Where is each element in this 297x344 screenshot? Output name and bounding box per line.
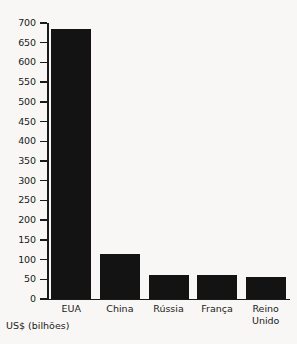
y-axis-tick [40,298,47,300]
y-axis-tick-label: 200 [0,215,36,225]
y-axis-tick-label: 700 [0,18,36,28]
bar [149,275,189,299]
x-axis-tick-label: Reino Unido [241,303,290,326]
y-axis-tick [40,239,47,241]
y-axis-tick-label: 550 [0,77,36,87]
bar [197,275,237,299]
y-axis-tick-label: 500 [0,97,36,107]
y-axis-tick [40,160,47,162]
y-axis-tick-label: 100 [0,255,36,265]
y-axis-tick [40,219,47,221]
y-axis-tick-label: 50 [0,274,36,284]
y-axis-tick [40,62,47,64]
bar [100,254,140,299]
y-axis-tick [40,121,47,123]
y-axis-tick-label: 250 [0,195,36,205]
y-axis-tick-label: 0 [0,294,36,304]
x-axis-tick-label: Rússia [144,303,193,315]
y-axis-tick-label: 650 [0,38,36,48]
bar [246,277,286,299]
y-axis-tick [40,279,47,281]
y-axis-tick [40,259,47,261]
y-axis-tick [40,101,47,103]
y-axis-tick-label: 450 [0,117,36,127]
y-axis-tick-label: 600 [0,57,36,67]
x-axis-tick-label: China [96,303,145,315]
y-axis-tick-label: 300 [0,176,36,186]
bars-layer [47,23,290,299]
x-axis-tick-label: França [193,303,242,315]
y-axis-tick [40,180,47,182]
y-axis-tick [40,141,47,143]
bar-chart: 7006506005505004504003503002502001501005… [0,0,297,344]
y-axis-tick [40,200,47,202]
bar [51,29,91,299]
x-axis-tick-label: EUA [47,303,96,315]
y-axis-tick-label: 400 [0,136,36,146]
y-axis-caption: US$ (bilhões) [6,320,69,331]
y-axis-tick [40,42,47,44]
y-axis-tick [40,22,47,24]
y-axis-tick-label: 150 [0,235,36,245]
y-axis-tick [40,81,47,83]
y-axis-tick-label: 350 [0,156,36,166]
